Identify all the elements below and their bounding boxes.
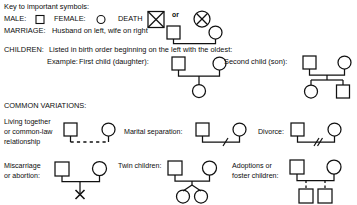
female-circle-symbol — [328, 123, 341, 136]
male-square-symbol — [55, 162, 69, 176]
marriage-line — [310, 69, 345, 75]
crossed-square-symbol — [148, 12, 164, 28]
female-circle-symbol — [93, 162, 107, 176]
female-circle-symbol — [102, 123, 115, 136]
marriage-example-diagram — [167, 26, 222, 44]
union-line — [203, 136, 240, 142]
female-circle-symbol — [97, 16, 105, 24]
parent-square-symbol — [172, 57, 185, 70]
female-circle-symbol — [233, 123, 246, 136]
male-square-symbol — [168, 161, 182, 175]
marriage-line — [174, 39, 216, 44]
parent-square-symbol — [303, 56, 316, 69]
female-circle-symbol — [327, 160, 341, 174]
genogram-symbol-key: Key to important symbols: MALE: FEMALE: … — [0, 0, 357, 205]
marital-separation-diagram — [196, 123, 246, 146]
adoptions-diagram — [290, 160, 341, 203]
twin-circle-symbol-1 — [177, 190, 190, 203]
marriage-line — [179, 70, 220, 76]
symbol-graphics-layer — [0, 0, 357, 205]
adopted-square-symbol-2 — [318, 189, 332, 203]
male-square-symbol — [291, 123, 304, 136]
male-square-symbol — [36, 16, 44, 24]
union-line — [175, 175, 210, 181]
wife-circle-symbol — [209, 26, 222, 39]
daughter-circle-symbol — [193, 85, 206, 98]
first-child-example-diagram — [172, 57, 226, 98]
union-line — [298, 136, 335, 142]
male-square-symbol — [64, 123, 77, 136]
twin-circle-symbol-2 — [195, 190, 208, 203]
divorce-diagram — [291, 123, 341, 146]
miscarriage-diagram — [55, 162, 107, 200]
union-line — [297, 174, 334, 181]
male-square-symbol — [196, 123, 209, 136]
male-square-symbol — [290, 160, 304, 174]
husband-square-symbol — [167, 26, 180, 39]
adopted-square-symbol-1 — [299, 189, 313, 203]
second-child-example-diagram — [303, 56, 351, 98]
son-square-symbol — [337, 85, 350, 98]
twin-children-diagram — [168, 161, 217, 203]
crossed-circle-symbol — [194, 11, 210, 27]
daughter-circle-symbol — [305, 85, 318, 98]
living-together-diagram — [64, 123, 115, 142]
female-circle-symbol — [203, 161, 217, 175]
parent-circle-symbol — [338, 56, 351, 69]
parent-circle-symbol — [213, 57, 226, 70]
